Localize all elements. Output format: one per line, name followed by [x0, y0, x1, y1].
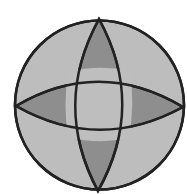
lens-circle-diagram — [0, 0, 187, 194]
